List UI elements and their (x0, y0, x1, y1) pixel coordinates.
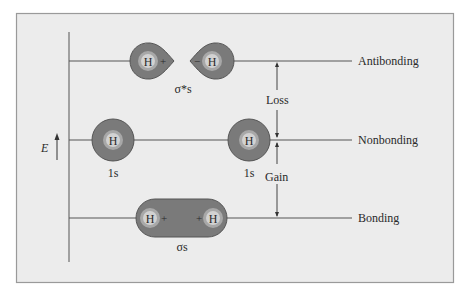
antibonding-orbital-label: σ*s (174, 82, 191, 96)
nonbonding-left-label: 1s (108, 166, 119, 180)
antibonding-left-atom: H (144, 55, 153, 69)
antibonding-level-label: Antibonding (358, 54, 419, 68)
bonding-orbital-label: σs (176, 240, 187, 254)
bonding-right-sign: + (196, 212, 202, 224)
nonbonding-left-orbital: H (92, 119, 134, 161)
nonbonding-right-atom: H (245, 134, 254, 148)
antibonding-left-sign: + (160, 55, 166, 67)
mo-energy-diagram: E H + H − σ*s Antibonding H (0, 0, 471, 300)
bonding-left-atom: H (146, 212, 155, 226)
energy-axis-label: E (40, 141, 49, 155)
bonding-orbital: H + H + (136, 199, 227, 237)
bonding-level-label: Bonding (358, 211, 399, 225)
bonding-right-atom: H (209, 212, 218, 226)
loss-label: Loss (266, 93, 289, 107)
antibonding-right-atom: H (208, 55, 217, 69)
antibonding-right-sign: − (194, 55, 200, 67)
nonbonding-right-orbital: H (228, 119, 270, 161)
nonbonding-right-label: 1s (244, 166, 255, 180)
nonbonding-level-label: Nonbonding (358, 133, 418, 147)
bonding-left-sign: + (161, 212, 167, 224)
nonbonding-left-atom: H (109, 134, 118, 148)
gain-label: Gain (265, 170, 288, 184)
